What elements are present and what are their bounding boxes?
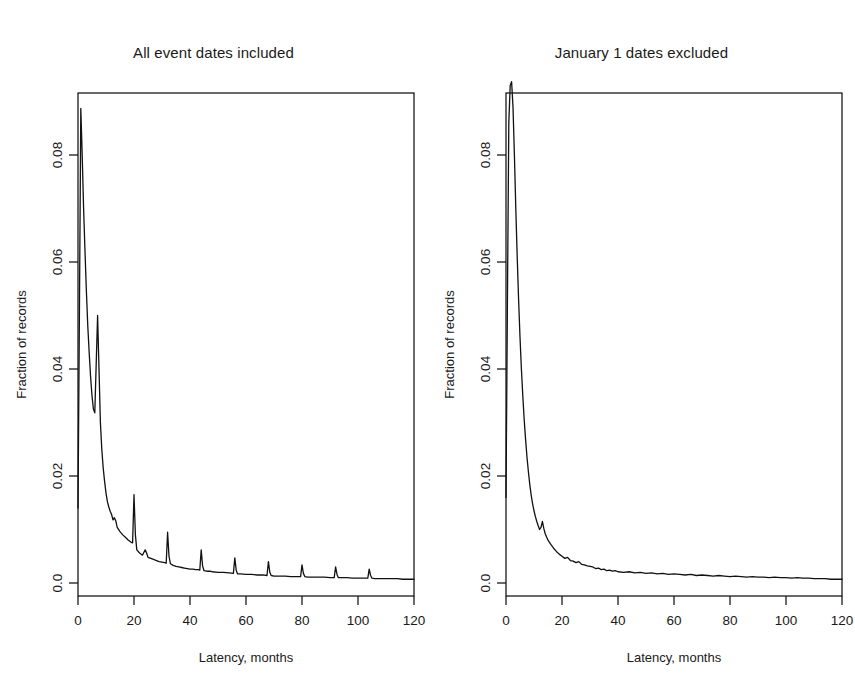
- y-tick-label: 0.08: [50, 142, 65, 168]
- x-tick-label: 100: [775, 613, 798, 628]
- x-tick-label: 60: [666, 613, 681, 628]
- chart-panel-right: January 1 dates excluded 020406080100120…: [428, 0, 855, 698]
- y-tick-label: 0.08: [478, 142, 493, 168]
- y-axis-title: Fraction of records: [442, 290, 457, 399]
- x-tick-label: 20: [554, 613, 569, 628]
- data-series-line: [506, 82, 842, 580]
- x-tick-label: 100: [347, 613, 370, 628]
- y-tick-label: 0.0: [478, 574, 493, 593]
- plot-area-right: 0204060801001200.00.020.040.060.08Latenc…: [428, 0, 855, 698]
- plot-area-left: 0204060801001200.00.020.040.060.08Latenc…: [0, 0, 427, 698]
- x-tick-label: 40: [610, 613, 625, 628]
- x-tick-label: 60: [238, 613, 253, 628]
- y-tick-label: 0.06: [50, 249, 65, 275]
- chart-panel-left: All event dates included 020406080100120…: [0, 0, 427, 698]
- x-tick-label: 120: [831, 613, 854, 628]
- y-axis-title: Fraction of records: [14, 290, 29, 399]
- x-tick-label: 0: [502, 613, 510, 628]
- y-tick-label: 0.0: [50, 574, 65, 593]
- x-axis-title: Latency, months: [199, 650, 294, 665]
- x-axis-title: Latency, months: [627, 650, 722, 665]
- y-tick-label: 0.06: [478, 249, 493, 275]
- y-tick-label: 0.02: [50, 463, 65, 489]
- x-tick-label: 20: [126, 613, 141, 628]
- x-tick-label: 80: [294, 613, 309, 628]
- x-tick-label: 40: [182, 613, 197, 628]
- data-series-line: [78, 108, 414, 579]
- y-tick-label: 0.04: [50, 355, 65, 382]
- figure-container: All event dates included 020406080100120…: [0, 0, 855, 698]
- plot-box: [506, 93, 842, 596]
- y-tick-label: 0.02: [478, 463, 493, 489]
- x-tick-label: 120: [403, 613, 426, 628]
- plot-box: [78, 93, 414, 596]
- x-tick-label: 0: [74, 613, 82, 628]
- y-tick-label: 0.04: [478, 355, 493, 382]
- x-tick-label: 80: [722, 613, 737, 628]
